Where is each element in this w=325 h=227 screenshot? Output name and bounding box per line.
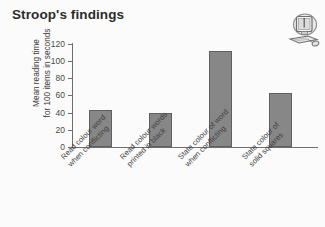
y-axis-title-line1: Mean reading time	[31, 17, 42, 129]
stroop-findings-chart-figure: Stroop's findings	[0, 0, 325, 227]
y-tick-mark-100	[68, 61, 72, 62]
y-axis-title: Mean reading time for 100 items in secon…	[31, 17, 53, 129]
y-tick-mark-40	[68, 113, 72, 114]
y-tick-mark-20	[68, 130, 72, 131]
plot-area: 120 100 80 60 40 20 0 Mean reading time …	[0, 0, 325, 227]
y-axis-title-line2: for 100 items in seconds	[42, 17, 53, 129]
y-tick-label-0: 0	[39, 143, 65, 152]
y-axis-line	[72, 43, 73, 148]
y-tick-mark-60	[68, 95, 72, 96]
y-tick-mark-120	[68, 44, 72, 45]
y-tick-mark-80	[68, 78, 72, 79]
